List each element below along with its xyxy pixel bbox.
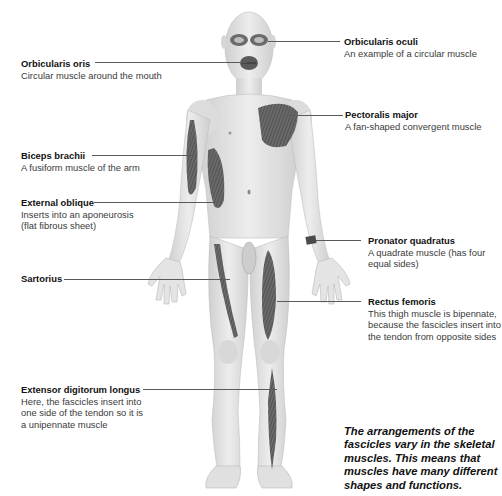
label-description-line-3: a unipennate muscle <box>21 419 143 431</box>
label-description-line-1: Here, the fascicles insert into <box>21 396 143 408</box>
label-sartorius: Sartorius <box>21 273 62 285</box>
pronator-quadratus-shape <box>305 235 316 245</box>
label-description-line-1: A quadrate muscle (has four <box>368 247 485 259</box>
note-line: fascicles vary in the skeletal <box>344 438 502 451</box>
label-description: Circular muscle around the mouth <box>21 70 162 82</box>
label-title: Biceps brachii <box>21 150 140 162</box>
label-title: External oblique <box>21 197 134 209</box>
label-description-line-2: (flat fibrous sheet) <box>21 220 134 232</box>
label-description: An example of a circular muscle <box>344 48 477 60</box>
label-rectus-femoris: Rectus femoris This thigh muscle is bipe… <box>368 296 501 342</box>
note-line: The arrangements of the <box>344 425 502 438</box>
label-title: Pronator quadratus <box>368 235 485 247</box>
leader-extensor-digitorum-longus <box>143 389 277 390</box>
label-orbicularis-oculi: Orbicularis oculi An example of a circul… <box>344 36 477 59</box>
label-description: A fan-shaped convergent muscle <box>345 121 482 133</box>
label-title: Orbicularis oris <box>21 58 162 70</box>
label-external-oblique: External oblique Inserts into an aponeur… <box>21 197 134 232</box>
note-line: muscles have many different <box>344 465 502 478</box>
label-title: Sartorius <box>21 273 62 285</box>
leader-pectoralis-major <box>287 115 343 116</box>
label-description: A fusiform muscle of the arm <box>21 162 140 174</box>
label-description-line-1: This thigh muscle is bipennate, <box>368 308 501 320</box>
right-foot <box>258 466 293 488</box>
summary-note: The arrangements of the fascicles vary i… <box>344 425 502 492</box>
right-hand <box>312 258 350 304</box>
label-description-line-2: equal sides) <box>368 258 485 270</box>
label-pronator-quadratus: Pronator quadratus A quadrate muscle (ha… <box>368 235 485 270</box>
label-description-line-2: one side of the tendon so it is <box>21 407 143 419</box>
note-line: muscles. This means that <box>344 452 502 465</box>
leader-sartorius <box>64 279 230 280</box>
head <box>225 12 273 84</box>
note-line: shapes and functions. <box>344 479 502 492</box>
leader-orbicularis-oculi <box>268 41 340 42</box>
label-title: Pectoralis major <box>345 109 482 121</box>
label-biceps-brachii: Biceps brachii A fusiform muscle of the … <box>21 150 140 173</box>
label-description-line-1: Inserts into an aponeurosis <box>21 209 134 221</box>
label-extensor-digitorum-longus: Extensor digitorum longus Here, the fasc… <box>21 384 143 430</box>
label-orbicularis-oris: Orbicularis oris Circular muscle around … <box>21 58 162 81</box>
label-pectoralis-major: Pectoralis major A fan-shaped convergent… <box>345 109 482 132</box>
label-description-line-3: the tendon from opposite sides <box>368 331 501 343</box>
leader-pronator-quadratus <box>316 240 361 241</box>
left-hand <box>148 258 186 304</box>
leader-rectus-femoris <box>277 301 361 302</box>
left-foot <box>206 466 241 488</box>
label-title: Rectus femoris <box>368 296 501 308</box>
label-description-line-2: because the fascicles insert into <box>368 319 501 331</box>
label-title: Orbicularis oculi <box>344 36 477 48</box>
label-title: Extensor digitorum longus <box>21 384 143 396</box>
